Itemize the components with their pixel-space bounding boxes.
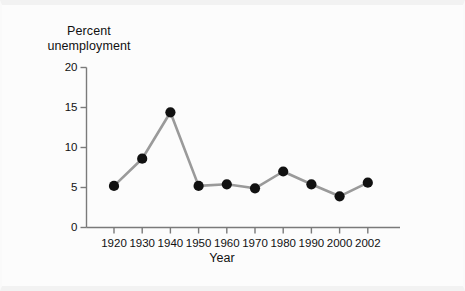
chart-figure: Percent unemployment 05101520 1920193019… xyxy=(0,0,465,291)
x-axis-title: Year xyxy=(2,251,442,265)
tick-marks xyxy=(81,68,368,234)
y-tick-label: 0 xyxy=(52,221,78,233)
axes xyxy=(87,68,401,228)
y-tick-label: 10 xyxy=(52,141,78,153)
data-line xyxy=(114,112,368,196)
y-tick-label: 5 xyxy=(52,181,78,193)
y-tick-label: 20 xyxy=(52,61,78,73)
y-tick-label: 15 xyxy=(52,101,78,113)
x-tick-label: 2002 xyxy=(348,237,388,249)
